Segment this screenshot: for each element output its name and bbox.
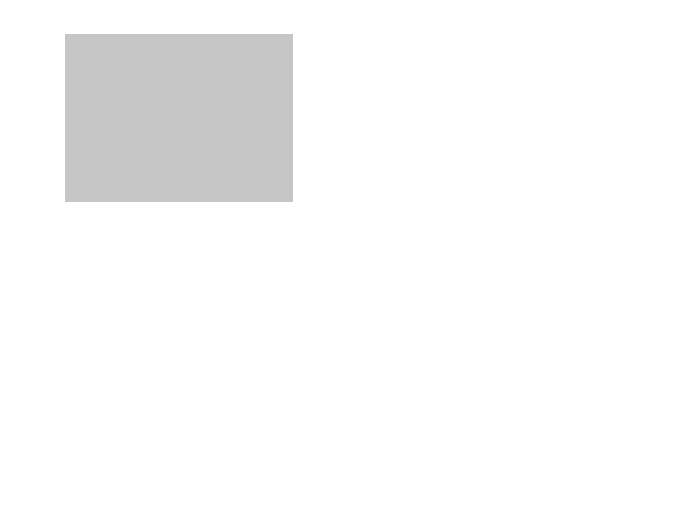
tectonic-map <box>0 0 680 507</box>
